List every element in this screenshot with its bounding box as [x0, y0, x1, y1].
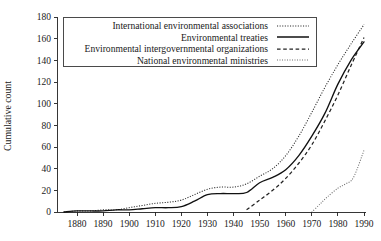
x-tick-label: 1970 [302, 219, 321, 229]
y-tick-label: 180 [37, 12, 52, 22]
legend-label-international-environmental-associations: International environmental associations [112, 20, 268, 31]
y-tick-label: 60 [42, 142, 52, 152]
y-tick-label: 100 [37, 99, 52, 109]
y-ticks-group: 020406080100120140160180 [37, 12, 57, 217]
chart-legend: International environmental associations… [63, 17, 317, 67]
x-tick-label: 1990 [355, 219, 374, 229]
legend-entry-environmental-treaties: Environmental treaties [68, 32, 310, 44]
legend-label-national-environmental-ministries: National environmental ministries [137, 55, 268, 66]
chart-figure: 020406080100120140160180 188018901900191… [0, 0, 381, 241]
x-tick-label: 1940 [224, 219, 243, 229]
sparse-dotted-line-sample-icon [276, 55, 310, 65]
solid-line-sample-icon [276, 32, 310, 42]
x-tick-label: 1890 [94, 219, 113, 229]
y-tick-label: 40 [42, 164, 52, 174]
y-tick-label: 80 [42, 121, 52, 131]
legend-label-environmental-treaties: Environmental treaties [181, 32, 268, 43]
x-tick-label: 1960 [276, 219, 295, 229]
y-tick-label: 0 [46, 207, 51, 217]
y-tick-label: 140 [37, 56, 52, 66]
legend-entry-environmental-intergovernmental-organizations: Environmental intergovernmental organiza… [68, 43, 310, 55]
dotted-line-sample-icon [276, 21, 310, 31]
x-tick-label: 1920 [172, 219, 191, 229]
y-tick-label: 160 [37, 34, 52, 44]
y-axis-title: Cumulative count [2, 81, 13, 151]
y-tick-label: 120 [37, 77, 52, 87]
x-tick-label: 1880 [68, 219, 87, 229]
x-tick-label: 1900 [120, 219, 139, 229]
series-line-national-environmental-ministries [312, 150, 364, 212]
legend-entry-international-environmental-associations: International environmental associations [68, 20, 310, 32]
x-tick-label: 1930 [198, 219, 217, 229]
series-line-environmental-treaties [64, 42, 364, 212]
legend-entry-national-environmental-ministries: National environmental ministries [68, 55, 310, 67]
legend-label-environmental-intergovernmental-organizations: Environmental intergovernmental organiza… [85, 43, 268, 54]
y-tick-label: 20 [42, 186, 52, 196]
x-tick-label: 1910 [146, 219, 165, 229]
dashed-line-sample-icon [276, 44, 310, 54]
x-ticks-group: 1880189019001910192019301940195019601970… [68, 212, 374, 229]
x-tick-label: 1980 [328, 219, 347, 229]
x-tick-label: 1950 [250, 219, 269, 229]
